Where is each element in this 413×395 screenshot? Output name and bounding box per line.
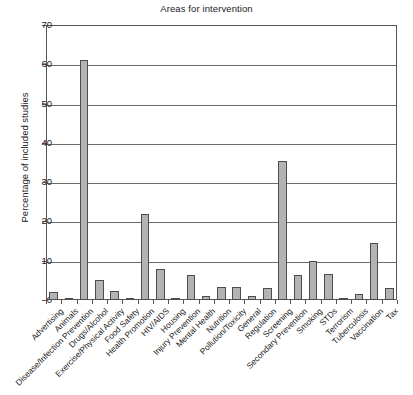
bar bbox=[263, 288, 272, 300]
x-tick-mark bbox=[290, 300, 291, 304]
bar bbox=[110, 291, 119, 300]
x-tick-mark bbox=[183, 300, 184, 304]
x-tick-mark bbox=[366, 300, 367, 304]
x-tick-mark bbox=[61, 300, 62, 304]
x-tick-mark bbox=[260, 300, 261, 304]
x-tick-mark bbox=[138, 300, 139, 304]
bar bbox=[232, 287, 241, 300]
x-tick-mark bbox=[199, 300, 200, 304]
x-axis-ticks bbox=[46, 300, 397, 305]
bar bbox=[80, 60, 89, 300]
x-tick-mark bbox=[244, 300, 245, 304]
bar bbox=[278, 161, 287, 300]
bars-layer bbox=[46, 25, 397, 300]
y-axis-title: Percentage of included studies bbox=[19, 48, 30, 268]
bar bbox=[370, 243, 379, 300]
x-tick-label: Tax bbox=[384, 306, 400, 322]
x-tick-mark bbox=[153, 300, 154, 304]
x-tick-mark bbox=[92, 300, 93, 304]
x-tick-mark bbox=[321, 300, 322, 304]
x-tick-mark bbox=[168, 300, 169, 304]
chart-figure: Areas for intervention Percentage of inc… bbox=[0, 0, 413, 395]
x-tick-mark bbox=[229, 300, 230, 304]
x-tick-mark bbox=[46, 300, 47, 304]
bar bbox=[49, 292, 58, 300]
x-tick-mark bbox=[351, 300, 352, 304]
bar bbox=[217, 287, 226, 300]
x-tick-mark bbox=[107, 300, 108, 304]
x-tick-mark bbox=[77, 300, 78, 304]
chart-title: Areas for intervention bbox=[0, 3, 413, 14]
x-tick-mark bbox=[382, 300, 383, 304]
x-tick-mark bbox=[275, 300, 276, 304]
bar bbox=[187, 275, 196, 300]
bar bbox=[141, 214, 150, 300]
bar bbox=[156, 269, 165, 300]
x-tick-mark bbox=[305, 300, 306, 304]
x-tick-mark bbox=[122, 300, 123, 304]
x-tick-mark bbox=[397, 300, 398, 304]
bar bbox=[385, 288, 394, 300]
bar bbox=[324, 274, 333, 300]
x-tick-mark bbox=[336, 300, 337, 304]
bar bbox=[309, 261, 318, 300]
x-tick-mark bbox=[214, 300, 215, 304]
bar bbox=[294, 275, 303, 300]
bar bbox=[95, 280, 104, 300]
